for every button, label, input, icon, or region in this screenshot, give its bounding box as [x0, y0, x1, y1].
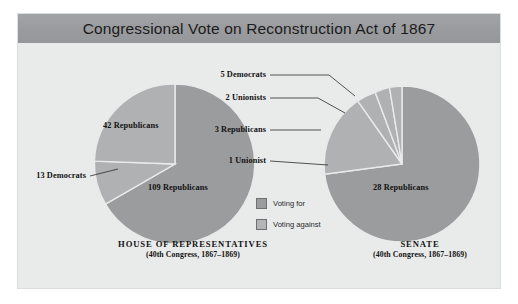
caption-house-subtitle: (40th Congress, 1867–1869): [73, 250, 313, 259]
house-label-13-democrats: 13 Democrats: [18, 171, 86, 180]
title-bar: Congressional Vote on Reconstruction Act…: [18, 14, 500, 43]
legend-swatch-voting-against: [256, 219, 267, 230]
caption-house-title: HOUSE OF REPRESENTATIVES: [73, 239, 313, 249]
senate-label-1-unionist: 1 Unionist: [198, 156, 266, 165]
caption-senate: SENATE (40th Congress, 1867–1869): [340, 239, 500, 259]
legend-label-voting-for: Voting for: [273, 199, 305, 208]
chart-panel: Congressional Vote on Reconstruction Act…: [18, 14, 500, 288]
legend: Voting for Voting against: [256, 195, 352, 237]
plot-area: 42 Republicans 109 Republicans 28 Republ…: [18, 43, 500, 288]
senate-label-2-unionists: 2 Unionists: [198, 93, 266, 102]
senate-label-5-democrats: 5 Democrats: [198, 70, 266, 79]
senate-label-28-republicans: 28 Republicans: [373, 183, 429, 192]
page-title: Congressional Vote on Reconstruction Act…: [83, 20, 436, 38]
house-label-109-republicans: 109 Republicans: [148, 183, 208, 192]
legend-label-voting-against: Voting against: [273, 220, 321, 229]
senate-label-3-republicans: 3 Republicans: [186, 125, 266, 134]
caption-senate-title: SENATE: [340, 239, 500, 249]
leader-line-senate-2-unionists-b: [318, 98, 345, 113]
caption-house: HOUSE OF REPRESENTATIVES (40th Congress,…: [73, 239, 313, 259]
leader-line-senate-1-unionist: [270, 161, 328, 165]
figure-root: Congressional Vote on Reconstruction Act…: [0, 0, 518, 304]
legend-item-voting-for[interactable]: Voting for: [256, 195, 352, 212]
caption-senate-subtitle: (40th Congress, 1867–1869): [340, 250, 500, 259]
leader-line-senate-5-democrats-b: [329, 75, 355, 96]
house-label-42-republicans: 42 Republicans: [103, 121, 159, 130]
legend-item-voting-against[interactable]: Voting against: [256, 216, 352, 233]
legend-swatch-voting-for: [256, 198, 267, 209]
